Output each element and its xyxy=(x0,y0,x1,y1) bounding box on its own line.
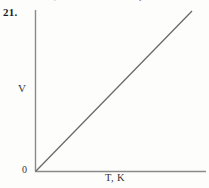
y-axis-label: V xyxy=(18,82,26,94)
x-axis-label: T, K xyxy=(105,172,125,183)
origin-label: 0 xyxy=(22,164,27,175)
volume-temperature-graph xyxy=(0,0,209,188)
data-line-direct-proportion xyxy=(36,11,192,171)
figure-page: 2.4 x 10 atm, 3.5 x 10 psi 21. V T, K 0 xyxy=(0,0,209,188)
